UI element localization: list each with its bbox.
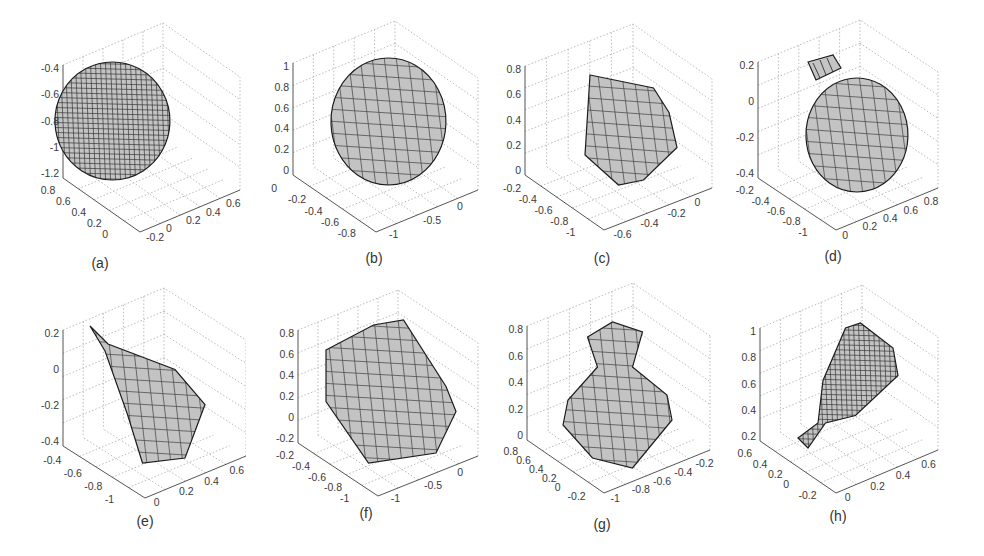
z-tick-label: 0.4 [497,115,521,126]
z-tick-label: 0.2 [265,144,289,155]
y-tick-label: -0.2 [288,194,306,205]
z-tick-label: 0 [730,96,754,107]
x-tick-label: 0.2 [863,221,878,232]
x-tick-label: 0.8 [924,196,939,207]
z-tick-label: 0 [499,430,523,441]
z-tick-label: 0.2 [35,328,59,339]
plot-area-d [738,0,984,278]
x-tick-label: 0.4 [883,213,898,224]
z-tick-label: 0.4 [499,377,523,388]
z-tick-label: -1.2 [35,168,59,179]
x-tick-label: -0.4 [674,467,692,478]
y-tick-label: -1 [566,227,575,238]
x-tick-label: 0.6 [229,465,244,476]
panel-e: 0.20-0.2-0.4-0.4-0.6-0.8-100.20.40.6(e) [0,278,246,556]
y-tick-label: -0.8 [338,228,356,239]
y-tick-label: 0 [555,482,561,493]
z-tick-label: 0 [270,412,294,423]
y-tick-label: -0.2 [503,183,521,194]
y-tick-label: -0.6 [321,217,339,228]
z-tick-label: -0.2 [270,433,294,444]
z-tick-label: -0.4 [35,63,59,74]
mesh-surface-dense-wireframe-sphere [35,52,196,191]
x-tick-label: 0 [457,467,463,478]
y-tick-label: 0.6 [738,448,753,459]
z-tick-label: 0.6 [499,351,523,362]
x-tick-label: -0.2 [695,458,713,469]
z-tick-label: -0.2 [730,132,754,143]
x-tick-label: 0 [166,223,172,234]
mesh-surface-mesh-teardrop [70,316,244,482]
x-tick-label: -0.5 [423,215,441,226]
z-tick-label: 0 [497,165,521,176]
y-tick-label: 0 [783,479,789,490]
x-tick-label: 0.4 [204,476,219,487]
panel-g: 0.80.60.40.200.80.60.40.20-0.2-1-0.8-0.6… [492,278,738,556]
x-tick-label: -1 [391,493,400,504]
panel-a: -0.4-0.6-0.8-1-1.20.80.60.40.20-0.200.20… [0,0,246,278]
z-tick-label: -0.6 [35,89,59,100]
y-tick-label: -1 [798,227,807,238]
panel-c: 0.80.60.40.20-0.2-0.4-0.6-0.8-1-0.6-0.4-… [492,0,738,278]
panel-caption: (d) [813,248,853,264]
x-tick-label: 0 [695,197,701,208]
z-tick-label: -0.4 [35,436,59,447]
x-tick-label: 0 [842,230,848,241]
y-tick-label: -0.2 [568,491,586,502]
x-tick-label: 0.2 [870,481,885,492]
x-tick-label: 0.4 [206,207,221,218]
x-tick-label: 0.4 [896,470,911,481]
panel-b: 10.80.60.40.200-0.2-0.4-0.6-0.8-1-0.50(b… [246,0,492,278]
plot-area-b [246,0,492,278]
x-tick-label: -0.2 [668,208,686,219]
x-tick-label: 0.6 [226,198,241,209]
mesh-surface-mesh-sphere [311,48,473,202]
z-tick-label: 0.2 [732,431,756,442]
z-tick-label: 0.6 [270,349,294,360]
x-tick-label: 0.2 [179,486,194,497]
y-tick-label: -0.6 [64,468,82,479]
x-tick-label: 0 [457,201,463,212]
panel-caption: (b) [354,250,394,266]
x-tick-label: 0 [154,497,160,508]
z-tick-label: 0.8 [270,328,294,339]
mesh-surface-mesh-vase [538,312,712,478]
panel-d: 0.20-0.2-0.4-0.2-0.4-0.6-0.8-100.20.40.6… [738,0,984,278]
z-tick-label: 0.4 [265,123,289,134]
mesh-surface-mesh-egg-detached-cap [786,55,936,210]
plot-area-g [492,278,738,556]
x-tick-label: -0.8 [632,484,650,495]
z-tick-label: -0.2 [35,400,59,411]
z-tick-label: 0.6 [732,379,756,390]
panel-caption: (a) [80,255,120,271]
y-tick-label: 0.6 [56,196,71,207]
z-tick-label: 0.2 [270,391,294,402]
panel-caption: (e) [125,513,165,529]
x-tick-label: -0.4 [641,218,659,229]
y-tick-label: -0.2 [798,490,816,501]
z-tick-label: 0 [35,364,59,375]
y-tick-label: 0.4 [753,459,768,470]
plot-area-e [0,278,246,556]
y-tick-label: -0.8 [550,216,568,227]
y-tick-label: -0.4 [292,461,310,472]
y-tick-label: -0.4 [43,455,61,466]
mesh-surface-mesh-cylinder [301,310,487,476]
panel-caption: (h) [818,508,858,524]
panel-caption: (f) [346,505,386,521]
x-tick-label: 0.6 [921,459,936,470]
y-tick-label: 0.8 [41,185,56,196]
z-tick-label: 0.6 [497,89,521,100]
y-tick-label: -0.6 [535,205,553,216]
x-tick-label: -0.2 [146,232,164,243]
z-tick-label: 0.4 [732,405,756,416]
y-tick-label: 0 [271,183,277,194]
panel-caption: (g) [582,516,622,532]
x-tick-label: 0.6 [903,205,918,216]
z-tick-label: 0.2 [497,140,521,151]
y-tick-label: -0.4 [519,194,537,205]
y-tick-label: -1 [340,493,349,504]
x-tick-label: -1 [389,229,398,240]
z-tick-label: 0.8 [497,64,521,75]
plot-area-h [738,278,984,556]
